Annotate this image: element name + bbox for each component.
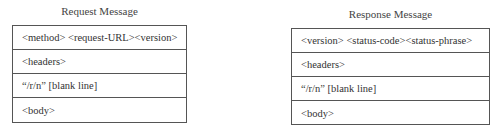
response-title: Response Message — [291, 8, 490, 20]
request-headers: <headers> — [13, 50, 186, 74]
request-blank-line: “/r/n” [blank line] — [13, 74, 186, 98]
status-line: <version> <status-code><status-phrase> — [292, 29, 489, 53]
request-message-box: <method> <request-URL><version> <headers… — [12, 25, 187, 123]
response-blank-line: “/r/n” [blank line] — [292, 77, 489, 101]
response-body: <body> — [292, 101, 489, 125]
request-line: <method> <request-URL><version> — [13, 26, 186, 50]
request-title: Request Message — [12, 5, 187, 17]
request-body: <body> — [13, 98, 186, 122]
response-message-box: <version> <status-code><status-phrase> <… — [291, 28, 490, 125]
response-headers: <headers> — [292, 53, 489, 77]
